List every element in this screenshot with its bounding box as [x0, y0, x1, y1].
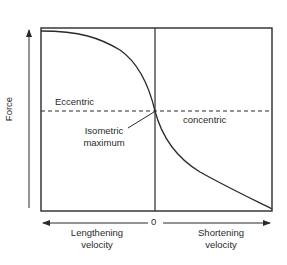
shortening-velocity-label: Shortening velocity: [186, 227, 256, 251]
shortening-label-line2: velocity: [186, 239, 256, 251]
lengthening-velocity-label: Lengthening velocity: [62, 227, 132, 251]
zero-label: 0: [151, 216, 156, 228]
isometric-label-line1: Isometric: [78, 125, 130, 137]
shortening-label-line1: Shortening: [186, 227, 256, 239]
force-velocity-curve: [41, 31, 272, 209]
isometric-maximum-label: Isometric maximum: [78, 125, 130, 149]
lengthening-label-line2: velocity: [62, 239, 132, 251]
concentric-label: concentric: [183, 114, 226, 126]
lengthening-label-line1: Lengthening: [62, 227, 132, 239]
eccentric-label: Eccentric: [55, 96, 94, 108]
isometric-pointer-line: [128, 112, 154, 128]
force-axis-label: Force: [3, 94, 15, 124]
force-velocity-diagram: [0, 0, 287, 265]
plot-frame: [41, 28, 272, 211]
isometric-label-line2: maximum: [78, 137, 130, 149]
